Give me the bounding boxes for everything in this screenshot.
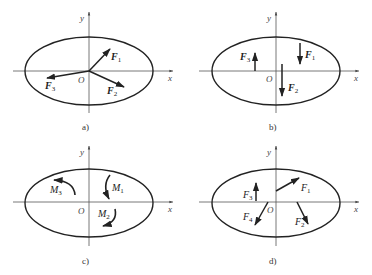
- force-label-f3: F3: [239, 51, 251, 64]
- panel-d: x y O F1 F2 F3 F4 d): [199, 146, 359, 266]
- force-label-f2: F2: [106, 85, 118, 98]
- moment-arc-m1: [106, 175, 110, 199]
- x-axis-label: x: [167, 204, 172, 214]
- moment-label-m1: M1: [111, 182, 124, 195]
- force-label-f1: F1: [110, 51, 122, 64]
- x-axis-label: x: [353, 204, 358, 214]
- origin-label: O: [266, 74, 273, 84]
- force-label-f4: F4: [242, 211, 253, 224]
- y-axis-label: y: [79, 147, 84, 157]
- x-axis-label: x: [353, 73, 358, 83]
- origin-label: O: [78, 206, 85, 216]
- y-axis-label: y: [266, 13, 271, 23]
- caption-c: c): [82, 256, 89, 266]
- y-axis-label: y: [266, 147, 271, 157]
- force-label-f1: F1: [304, 49, 316, 62]
- origin-label: O: [267, 205, 274, 215]
- panel-b: x y O F1 F2 F3 b): [199, 12, 359, 132]
- force-arrow-f1: [276, 178, 299, 191]
- caption-b: b): [269, 122, 277, 132]
- caption-a: a): [82, 122, 89, 132]
- x-axis-label: x: [167, 73, 172, 83]
- force-arrow-f1: [89, 49, 110, 71]
- force-system-figure: x y O F1 F2 F3 a) x y O F1 F2 F3 b) x y …: [0, 0, 372, 275]
- panel-a: x y O F1 F2 F3 a): [13, 12, 173, 132]
- caption-d: d): [269, 256, 277, 266]
- force-label-f3: F3: [44, 80, 56, 93]
- y-axis-label: y: [79, 13, 84, 23]
- force-label-f1: F1: [300, 182, 311, 195]
- moment-label-m3: M3: [49, 184, 62, 197]
- force-label-f3: F3: [242, 189, 253, 202]
- panel-c: x y O M1 M2 M3 c): [13, 146, 173, 266]
- moment-label-m2: M2: [97, 208, 110, 221]
- force-label-f2: F2: [294, 216, 305, 229]
- force-label-f2: F2: [287, 82, 299, 95]
- origin-label: O: [78, 75, 85, 85]
